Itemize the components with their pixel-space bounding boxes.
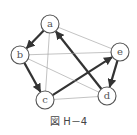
- node-label: d: [104, 90, 111, 101]
- node-c: c: [36, 91, 54, 109]
- nodes-group: abcde: [11, 15, 129, 109]
- edge-a-c: [46, 33, 50, 91]
- node-a: a: [41, 15, 59, 33]
- node-b: b: [11, 46, 29, 64]
- node-d: d: [98, 87, 116, 105]
- edge-b-e: [29, 52, 111, 54]
- node-label: a: [47, 18, 53, 29]
- node-label: e: [117, 46, 123, 57]
- node-label: b: [17, 49, 23, 60]
- edge-b-c: [24, 63, 40, 92]
- edge-c-d: [54, 97, 98, 100]
- edge-e-d: [110, 61, 118, 87]
- node-e: e: [111, 43, 129, 61]
- edge-d-a: [56, 31, 102, 88]
- edge-a-b: [27, 30, 44, 48]
- node-label: c: [42, 94, 48, 105]
- figure-caption: 図 H－4: [0, 113, 137, 128]
